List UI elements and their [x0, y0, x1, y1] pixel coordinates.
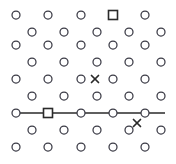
circle-marker [44, 41, 52, 49]
circle-marker [125, 58, 133, 66]
circle-marker [60, 126, 68, 134]
circle-marker [12, 143, 20, 151]
circle-marker [77, 11, 85, 19]
circle-marker [141, 11, 149, 19]
circle-marker [60, 92, 68, 100]
circle-marker [125, 28, 133, 36]
circle-marker [157, 126, 165, 134]
circle-marker [109, 41, 117, 49]
circle-marker [77, 109, 85, 117]
circle-marker [28, 92, 36, 100]
circle-marker [157, 92, 165, 100]
circle-marker [77, 41, 85, 49]
circle-marker [12, 11, 20, 19]
circle-marker [44, 11, 52, 19]
circle-marker [141, 41, 149, 49]
circle-marker [157, 28, 165, 36]
circle-marker [93, 92, 101, 100]
plot-background [0, 0, 176, 164]
circle-marker [141, 109, 149, 117]
circle-marker [12, 41, 20, 49]
circle-marker [93, 58, 101, 66]
square-marker [109, 11, 118, 20]
circle-marker [77, 75, 85, 83]
circle-marker [60, 58, 68, 66]
lattice-plot [0, 0, 176, 164]
circle-marker [12, 109, 20, 117]
circle-marker [77, 143, 85, 151]
circle-marker [125, 92, 133, 100]
circle-marker [93, 28, 101, 36]
square-marker [44, 109, 53, 118]
circle-marker [157, 58, 165, 66]
circle-marker [60, 28, 68, 36]
lattice-figure [0, 0, 176, 164]
circle-marker [109, 75, 117, 83]
circle-marker [28, 58, 36, 66]
circle-marker [141, 143, 149, 151]
circle-marker [44, 143, 52, 151]
circle-marker [93, 126, 101, 134]
circle-marker [28, 28, 36, 36]
circle-marker [28, 126, 36, 134]
circle-marker [109, 143, 117, 151]
circle-marker [12, 75, 20, 83]
circle-marker [125, 126, 133, 134]
circle-marker [109, 109, 117, 117]
circle-marker [141, 75, 149, 83]
circle-marker [44, 75, 52, 83]
